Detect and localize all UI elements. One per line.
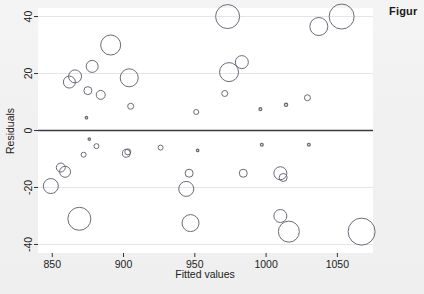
figure-root: 85090095010001050 40200-20-40 Fitted val… (0, 0, 424, 294)
residuals-vs-fitted-figure: 85090095010001050 40200-20-40 Fitted val… (0, 0, 424, 294)
x-tick-label: 850 (43, 258, 61, 270)
y-axis-title: Residuals (4, 108, 16, 154)
y-tick-label: 20 (22, 68, 34, 80)
y-tick-label: -20 (22, 180, 34, 195)
scatter-plot-canvas: 85090095010001050 40200-20-40 Fitted val… (0, 0, 424, 294)
figure-caption: Figur (389, 5, 424, 17)
x-tick-label: 1000 (254, 258, 278, 270)
y-tick-label: 40 (22, 11, 34, 23)
x-tick-label: 900 (115, 258, 133, 270)
y-axis: 40200-20-40 (22, 11, 38, 252)
x-axis-title: Fitted values (175, 268, 235, 280)
y-tick-label: 0 (22, 127, 34, 133)
y-tick-label: -40 (22, 237, 34, 252)
x-tick-label: 1050 (326, 258, 350, 270)
